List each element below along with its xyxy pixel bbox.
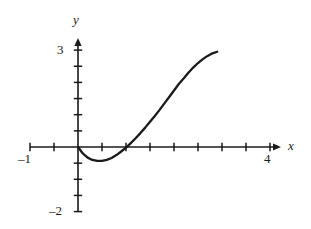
y-axis-label: y xyxy=(73,13,79,26)
curve-path xyxy=(78,52,217,161)
x-axis-arrow-icon xyxy=(273,143,281,150)
curve-group xyxy=(78,52,217,161)
axes-group xyxy=(30,38,281,212)
x-axis-label: x xyxy=(288,139,294,152)
axis-ticks-group xyxy=(30,50,270,212)
y-tick-label-negative-2: –2 xyxy=(49,204,62,217)
y-axis-arrow-icon xyxy=(74,38,81,46)
y-tick-label-3: 3 xyxy=(57,43,64,56)
graph-figure: y x 3 –2 –1 4 xyxy=(0,0,311,229)
x-tick-label-negative-1: –1 xyxy=(18,152,31,165)
plot-canvas xyxy=(0,0,311,229)
x-tick-label-4: 4 xyxy=(264,152,271,165)
